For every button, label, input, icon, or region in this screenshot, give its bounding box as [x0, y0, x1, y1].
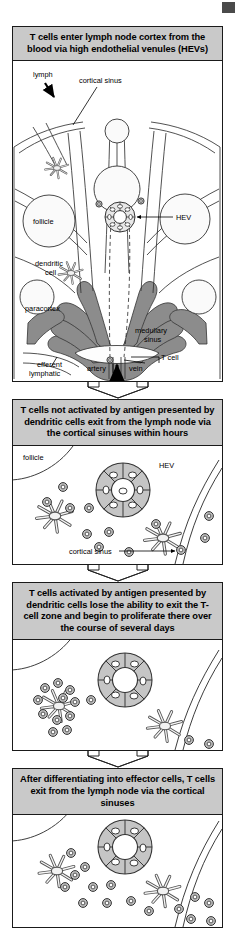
- panel-1-title: T cells enter lymph node cortex from the…: [13, 27, 222, 61]
- panel-3: T cells activated by antigen presented b…: [12, 582, 223, 751]
- label-follicle: follicle: [33, 217, 54, 226]
- panel-2-title: T cells not activated by antigen present…: [13, 400, 222, 446]
- panel-1-diagram: lymph cortical sinus follicle dendritic …: [13, 61, 222, 381]
- panel-2: T cells not activated by antigen present…: [12, 399, 223, 565]
- panel-4-title: After differentiating into effector cell…: [13, 769, 222, 815]
- label-t-cell: T cell: [161, 353, 179, 362]
- label-follicle-p2: follicle: [23, 453, 44, 462]
- label-vein: vein: [129, 364, 143, 373]
- label-dendritic-cell-line1: dendritic: [35, 259, 63, 268]
- label-artery: artery: [87, 364, 106, 373]
- lymph-node-figure: T cells enter lymph node cortex from the…: [12, 26, 223, 928]
- label-cortical-sinus-p2: cortical sinus: [69, 547, 112, 556]
- label-efferent-lymphatic-line2: lymphatic: [29, 369, 61, 378]
- label-cortical-sinus: cortical sinus: [79, 76, 122, 85]
- connector-1-to-2: [12, 382, 223, 399]
- panel-4-diagram: [13, 815, 222, 927]
- connector-3-to-4: [12, 751, 223, 768]
- panel-3-diagram: [13, 640, 222, 750]
- label-hev-p2: HEV: [159, 461, 174, 470]
- panel-4: After differentiating into effector cell…: [12, 768, 223, 928]
- panel-3-title: T cells activated by antigen presented b…: [13, 583, 222, 640]
- label-lymph: lymph: [33, 70, 53, 79]
- panel-2-diagram: follicle HEV cortical sinus: [13, 446, 222, 564]
- label-medullary-sinus-line2: sinus: [144, 335, 162, 344]
- label-medullary-sinus-line1: medullary: [135, 326, 167, 335]
- panel-1: T cells enter lymph node cortex from the…: [12, 26, 223, 382]
- label-efferent-lymphatic-line1: efferent: [37, 360, 62, 369]
- label-hev: HEV: [176, 213, 191, 222]
- label-dendritic-cell-line2: cell: [45, 268, 56, 277]
- connector-2-to-3: [12, 565, 223, 582]
- corner-artifact: [222, 2, 235, 13]
- label-paracortex: paracortex: [25, 304, 60, 313]
